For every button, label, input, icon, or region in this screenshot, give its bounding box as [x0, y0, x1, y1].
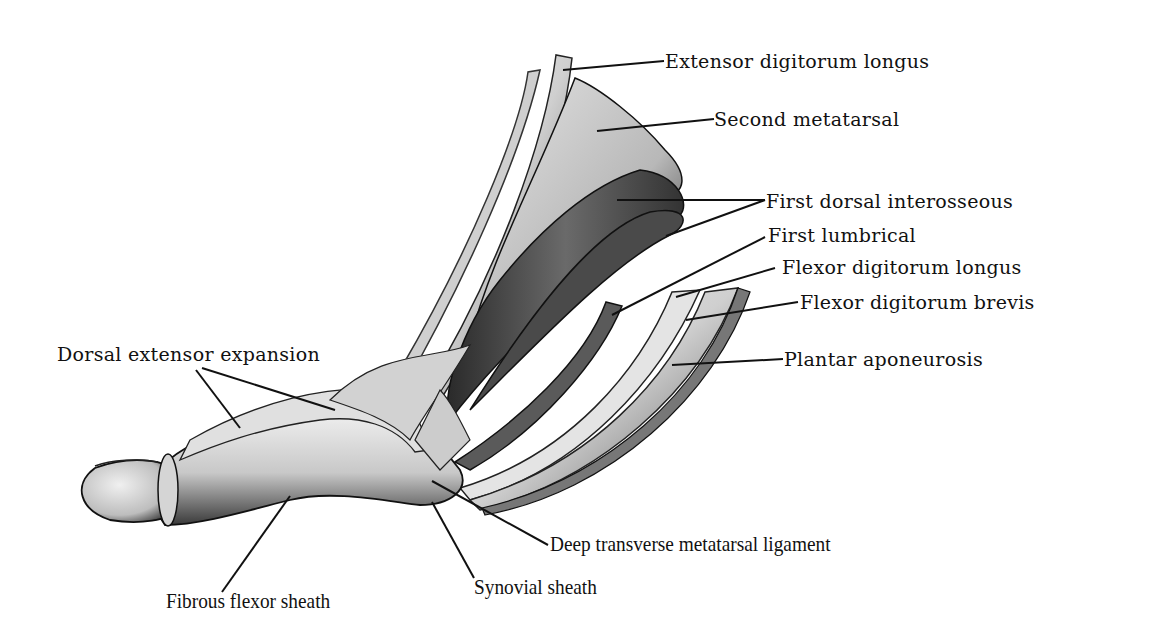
toe-shaft	[153, 345, 470, 525]
label-first-lumbrical: First lumbrical	[768, 226, 916, 245]
label-extensor-digitorum-longus: Extensor digitorum longus	[665, 52, 929, 71]
label-first-dorsal-interosseous: First dorsal interosseous	[766, 192, 1013, 211]
label-synovial-sheath: Synovial sheath	[474, 577, 597, 598]
label-second-metatarsal: Second metatarsal	[714, 110, 899, 129]
label-flexor-digitorum-longus: Flexor digitorum longus	[782, 258, 1022, 277]
label-deep-transverse-metatarsal-ligament: Deep transverse metatarsal ligament	[550, 534, 831, 555]
toe-tip-nail	[82, 454, 178, 526]
label-plantar-aponeurosis: Plantar aponeurosis	[784, 350, 983, 369]
label-fibrous-flexor-sheath: Fibrous flexor sheath	[166, 591, 330, 612]
label-flexor-digitorum-brevis: Flexor digitorum brevis	[800, 293, 1035, 312]
label-dorsal-extensor-expansion: Dorsal extensor expansion	[57, 345, 320, 364]
